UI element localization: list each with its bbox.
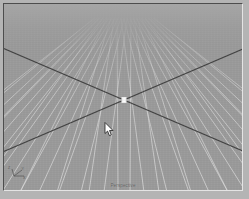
axis-arm-z (12, 169, 14, 176)
axis-label-z: Z (8, 166, 10, 170)
axis-arm-y (14, 170, 22, 176)
axis-tripod-gizmo: X Y Z (8, 165, 34, 185)
viewport-label: Perspective (4, 183, 242, 188)
perspective-grid (4, 4, 242, 190)
axis-label-y: Y (22, 167, 24, 171)
axis-label-x: X (23, 176, 25, 180)
viewport-canvas[interactable]: X Y Z Perspective (4, 4, 242, 190)
application-window: X Y Z Perspective (0, 0, 249, 199)
perspective-viewport[interactable]: X Y Z Perspective (3, 3, 243, 191)
